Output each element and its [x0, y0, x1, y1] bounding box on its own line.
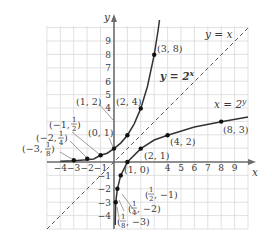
- svg-text:1: 1: [59, 130, 63, 138]
- svg-text:(3, 8): (3, 8): [157, 43, 183, 54]
- svg-text:−2: −2: [80, 163, 93, 173]
- svg-text:): ): [77, 119, 81, 130]
- exp-point-labels: (3, 8) (2, 4) (1, 2) (0, 1) (−1, 1 2 ) (…: [22, 43, 183, 158]
- svg-text:(4, 2): (4, 2): [170, 136, 196, 147]
- svg-text:−1: −1: [98, 171, 111, 181]
- svg-text:(8, 3): (8, 3): [223, 124, 249, 135]
- svg-text:, −1): , −1): [154, 189, 178, 200]
- svg-text:(2, 1): (2, 1): [144, 150, 170, 161]
- svg-text:−4: −4: [54, 163, 68, 173]
- y-axis-arrow-icon: [111, 14, 117, 22]
- svg-text:7: 7: [105, 63, 111, 73]
- svg-text:, −2): , −2): [137, 203, 161, 214]
- svg-text:8: 8: [46, 150, 50, 158]
- svg-text:8: 8: [218, 163, 224, 173]
- y-axis-label: y: [103, 11, 111, 23]
- svg-text:(0, 1): (0, 1): [88, 127, 114, 138]
- svg-text:7: 7: [205, 163, 211, 173]
- svg-text:1: 1: [132, 200, 136, 208]
- svg-text:2: 2: [149, 195, 153, 203]
- svg-text:6: 6: [105, 77, 111, 87]
- svg-text:4: 4: [105, 103, 111, 113]
- svg-text:9: 9: [232, 163, 238, 173]
- svg-text:(−1,: (−1,: [49, 119, 70, 130]
- svg-text:): ): [64, 132, 68, 143]
- svg-text:1: 1: [149, 186, 153, 194]
- svg-text:, −3): , −3): [126, 216, 150, 227]
- svg-text:−4: −4: [98, 211, 112, 221]
- svg-text:1: 1: [121, 213, 125, 221]
- svg-text:8: 8: [105, 50, 111, 60]
- graph: −4 −3 −2 −1 4 5 6 7 8 9 9 8 7 6 5 4 −1 −…: [0, 0, 272, 245]
- svg-text:−2: −2: [98, 184, 111, 194]
- svg-text:9: 9: [105, 36, 111, 46]
- svg-text:1: 1: [46, 141, 50, 149]
- svg-text:6: 6: [192, 163, 198, 173]
- svg-text:5: 5: [105, 90, 111, 100]
- svg-text:(1, 2): (1, 2): [76, 96, 102, 107]
- svg-text:): ): [51, 143, 55, 154]
- svg-text:4: 4: [165, 163, 171, 173]
- svg-text:−3: −3: [67, 163, 81, 173]
- svg-text:8: 8: [121, 222, 125, 230]
- identity-label: y = x: [204, 28, 232, 40]
- svg-text:(1, 0): (1, 0): [124, 164, 150, 175]
- svg-text:−3: −3: [98, 198, 112, 208]
- x-axis-label: x: [252, 166, 258, 178]
- exp-label: y = 2x: [159, 69, 195, 82]
- svg-text:5: 5: [178, 163, 184, 173]
- x-axis-arrow-icon: [248, 159, 256, 165]
- svg-text:(−3,: (−3,: [22, 143, 43, 154]
- svg-text:2: 2: [72, 125, 76, 133]
- svg-text:(2, 4): (2, 4): [116, 96, 142, 107]
- svg-text:1: 1: [72, 116, 76, 124]
